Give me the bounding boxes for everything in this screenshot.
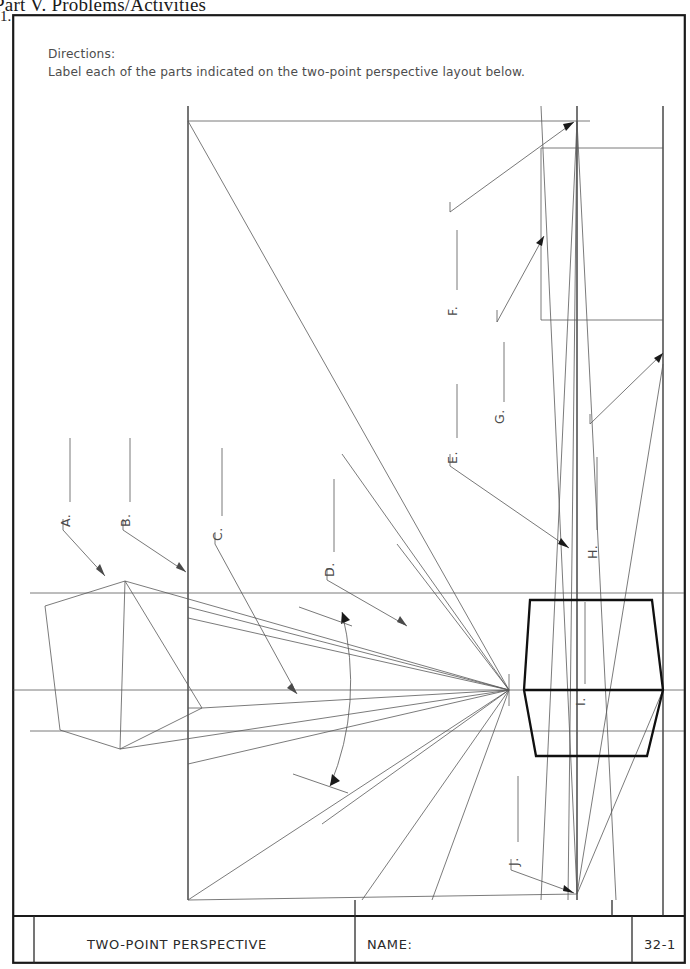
directions-heading: Directions: [48,47,115,61]
label-F: F. [445,306,460,316]
label-F-group: F. [445,122,574,316]
label-H-group: H. [585,353,663,559]
label-E: E. [445,451,460,464]
label-A: A. [58,514,73,527]
plan-view-box [45,581,509,749]
label-B: B. [118,513,133,527]
label-B-group: B. [118,438,186,572]
label-I: I. [573,697,588,706]
title-block-name-label: NAME: [367,937,412,952]
left-vanishing-point [188,454,509,900]
label-E-group: E. [445,384,569,548]
label-G: G. [492,409,507,424]
label-G-group: G. [492,236,544,424]
title-block-drawing-title: TWO-POINT PERSPECTIVE [86,937,267,952]
vertical-reference-lines [188,106,663,900]
label-C-group: C. [210,448,297,694]
perspective-object [524,600,663,756]
label-J: J. [506,857,521,867]
sight-lines [188,121,577,900]
label-C: C. [210,527,225,541]
label-D: D. [322,562,337,577]
label-H: H. [585,545,600,559]
title-block-sheet-number: 32-1 [644,937,676,952]
station-point-lines [541,121,616,900]
perspective-layout-svg: Directions: Label each of the parts indi… [12,14,686,964]
problem-number: 1. [0,8,11,25]
directions-body: Label each of the parts indicated on the… [48,65,525,79]
sheet-border [13,15,685,963]
label-A-group: A. [58,438,105,576]
drawing-sheet: Directions: Label each of the parts indi… [12,14,686,964]
horizontal-reference-lines [13,121,684,731]
bottom-convergence-lines [541,106,663,894]
label-D-group: D. [322,479,407,626]
label-J-group: J. [506,776,574,893]
title-block: TWO-POINT PERSPECTIVE NAME: 32-1 [13,900,684,963]
